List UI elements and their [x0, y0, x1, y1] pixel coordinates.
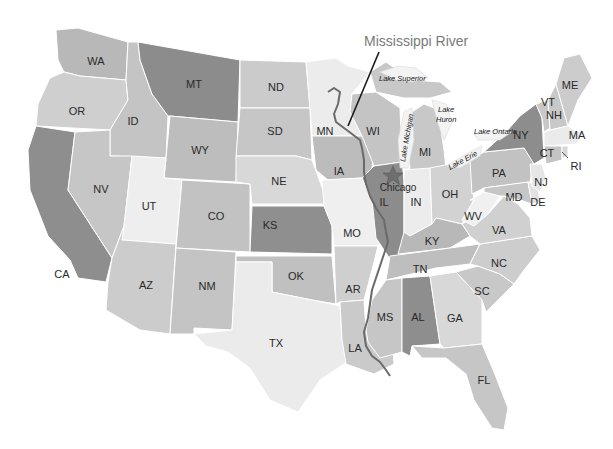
label-NH: NH	[546, 109, 562, 121]
label-SD: SD	[267, 125, 282, 137]
label-WV: WV	[464, 210, 482, 222]
label-MS: MS	[377, 311, 394, 323]
label-MD: MD	[505, 191, 522, 203]
label-NV: NV	[93, 183, 109, 195]
label-NC: NC	[491, 257, 507, 269]
label-WI: WI	[366, 125, 379, 137]
label-MT: MT	[186, 78, 202, 90]
label-LA: LA	[348, 342, 362, 354]
label-VT: VT	[541, 96, 555, 108]
label-DE: DE	[530, 196, 545, 208]
label-NM: NM	[198, 280, 215, 292]
lake-label-huron-1: Lake	[438, 105, 454, 114]
state-FL[interactable]	[412, 344, 508, 430]
label-NJ: NJ	[534, 176, 547, 188]
label-MI: MI	[419, 146, 431, 158]
lake-label-huron-2: Huron	[436, 115, 456, 124]
label-MA: MA	[569, 129, 586, 141]
label-KS: KS	[263, 219, 278, 231]
label-NY: NY	[513, 129, 529, 141]
label-MN: MN	[316, 125, 333, 137]
label-OH: OH	[442, 188, 459, 200]
label-IA: IA	[334, 165, 345, 177]
label-CA: CA	[54, 268, 70, 280]
label-ND: ND	[268, 81, 284, 93]
label-IL: IL	[379, 196, 388, 208]
label-AR: AR	[345, 283, 360, 295]
label-CT: CT	[540, 147, 555, 159]
label-AZ: AZ	[139, 279, 153, 291]
label-IN: IN	[411, 196, 422, 208]
label-MO: MO	[343, 227, 361, 239]
label-OK: OK	[288, 270, 305, 282]
label-VA: VA	[492, 224, 507, 236]
label-FL: FL	[478, 374, 491, 386]
label-TN: TN	[413, 263, 428, 275]
label-NE: NE	[271, 175, 286, 187]
label-KY: KY	[425, 235, 440, 247]
label-ID: ID	[128, 115, 139, 127]
city-label-chicago: Chicago	[380, 182, 417, 193]
label-GA: GA	[447, 312, 464, 324]
label-UT: UT	[142, 200, 157, 212]
label-ME: ME	[562, 79, 579, 91]
state-RI[interactable]	[562, 146, 568, 158]
lake-label-superior: Lake Superior	[379, 74, 426, 83]
label-TX: TX	[269, 337, 284, 349]
us-map: Mississippi River Chicago Lake Superior …	[0, 0, 613, 449]
label-SC: SC	[474, 285, 489, 297]
label-RI: RI	[571, 160, 582, 172]
river-title: Mississippi River	[364, 33, 469, 49]
label-PA: PA	[492, 167, 507, 179]
label-WA: WA	[87, 55, 105, 67]
state-OR[interactable]	[36, 72, 128, 130]
label-AL: AL	[411, 311, 424, 323]
label-OR: OR	[69, 105, 86, 117]
lake-label-ontario: Lake Ontario	[474, 127, 517, 136]
label-WY: WY	[191, 144, 209, 156]
label-CO: CO	[208, 210, 225, 222]
